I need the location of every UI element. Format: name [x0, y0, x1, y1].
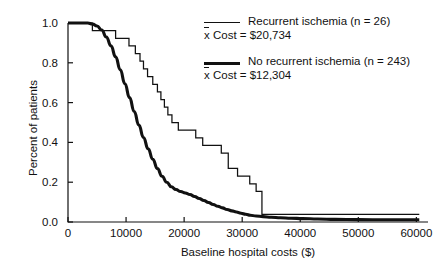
- legend-cost-value-no-recurrent-ischemia: Cost = $12,304: [210, 69, 292, 81]
- x-bar-symbol: x: [204, 28, 210, 42]
- legend-cost-value-recurrent-ischemia: Cost = $20,734: [210, 29, 292, 41]
- x-tick-label: 30000: [226, 227, 258, 239]
- y-axis-label: Percent of patients: [27, 63, 39, 193]
- thick-line-swatch: [204, 62, 240, 65]
- chart-legend: Recurrent ischemia (n = 26) x Cost = $20…: [204, 14, 410, 94]
- x-tick-label: 20000: [168, 227, 200, 239]
- x-axis-label: Baseline hospital costs ($): [68, 246, 428, 258]
- legend-cost-recurrent-ischemia: x Cost = $20,734: [204, 28, 410, 42]
- y-axis-ticks: [68, 23, 73, 222]
- y-tick-label: 0.0: [14, 216, 58, 228]
- chart-figure: 0.00.20.40.60.81.0 010000200003000040000…: [0, 0, 442, 270]
- legend-entry-recurrent-ischemia: Recurrent ischemia (n = 26) x Cost = $20…: [204, 14, 410, 42]
- x-bar-symbol: x: [204, 68, 210, 82]
- x-tick-label: 10000: [110, 227, 142, 239]
- x-tick-label: 60000: [400, 227, 432, 239]
- x-tick-label: 40000: [284, 227, 316, 239]
- legend-cost-no-recurrent-ischemia: x Cost = $12,304: [204, 68, 410, 82]
- y-tick-label: 1.0: [14, 17, 58, 29]
- legend-entry-no-recurrent-ischemia: No recurrent ischemia (n = 243) x Cost =…: [204, 54, 410, 82]
- x-tick-label: 50000: [342, 227, 374, 239]
- thin-line-swatch: [204, 22, 240, 23]
- legend-label-recurrent-ischemia: Recurrent ischemia (n = 26): [248, 14, 410, 28]
- x-tick-label: 0: [65, 227, 71, 239]
- legend-label-no-recurrent-ischemia: No recurrent ischemia (n = 243): [248, 54, 410, 68]
